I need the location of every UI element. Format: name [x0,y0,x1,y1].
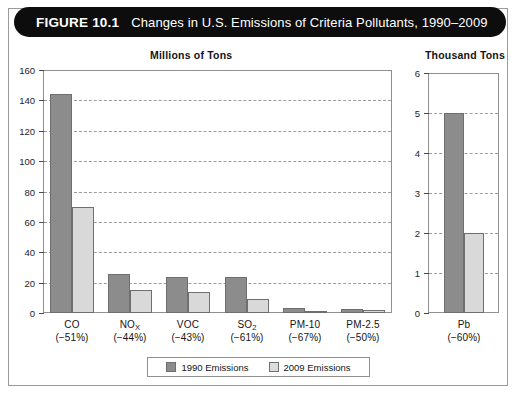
x-axis-category-pm-2.5: PM-2.5(−50%) [346,319,379,343]
legend-item-2009: 2009 Emissions [269,362,351,373]
bar [283,308,305,313]
y-axis-label: 5 [390,108,420,119]
y-axis-tick [39,313,44,314]
x-axis-category-so2: SO2(−61%) [230,319,263,343]
figure-number: FIGURE 10.1 [36,15,119,30]
y-axis-tick [424,73,429,74]
bar [444,113,464,313]
bar [108,274,130,313]
right-chart-title: Thousand Tons [425,49,505,61]
x-axis-category-nox: NOX(−44%) [113,319,146,343]
y-axis-tick [39,283,44,284]
y-axis-tick [424,233,429,234]
x-axis-category-name: PM-2.5 [346,319,379,330]
gridline [44,252,391,253]
bar [247,299,269,313]
x-axis-category-name: VOC [171,319,204,330]
bar [188,292,210,313]
bar [130,290,152,313]
y-axis-tick [39,161,44,162]
gridline [44,161,391,162]
y-axis-tick [424,113,429,114]
y-axis-tick [39,131,44,132]
bar [50,94,72,313]
x-axis-category-change: (−61%) [230,332,263,343]
x-axis-category-change: (−43%) [171,332,204,343]
y-axis-label: 4 [390,148,420,159]
gridline [44,192,391,193]
y-axis-label: 160 [5,65,35,76]
bar [225,277,247,313]
x-axis-category-co: CO(−51%) [55,319,88,343]
legend-swatch-2009 [269,362,279,372]
y-axis-label: 100 [5,156,35,167]
x-axis-category-change: (−51%) [55,332,88,343]
legend-swatch-1990 [166,362,176,372]
gridline [44,131,391,132]
x-axis-category-pb: Pb(−60%) [447,319,480,343]
bar [305,311,327,313]
bar [341,309,363,313]
x-axis-category-change: (−60%) [447,332,480,343]
legend-label-1990: 1990 Emissions [181,362,248,373]
gridline [44,283,391,284]
y-axis-label: 6 [390,68,420,79]
y-axis-tick [424,193,429,194]
figure-container: FIGURE 10.1 Changes in U.S. Emissions of… [0,0,516,394]
y-axis-label: 3 [390,188,420,199]
y-axis-label: 1 [390,268,420,279]
y-axis-label: 40 [5,247,35,258]
x-axis-category-name: Pb [447,319,480,330]
y-axis-tick [424,153,429,154]
x-axis-category-change: (−50%) [346,332,379,343]
y-axis-tick [39,70,44,71]
x-axis-category-name: CO [55,319,88,330]
y-axis-label: 140 [5,95,35,106]
y-axis-tick [39,222,44,223]
y-axis-label: 20 [5,277,35,288]
bar [166,277,188,313]
y-axis-label: 0 [390,308,420,319]
y-axis-label: 60 [5,216,35,227]
chart-legend: 1990 Emissions 2009 Emissions [147,357,370,377]
figure-title: Changes in U.S. Emissions of Criteria Po… [131,15,487,30]
gridline [44,222,391,223]
x-axis-category-voc: VOC(−43%) [171,319,204,343]
y-axis-tick [39,192,44,193]
bar [363,310,385,313]
y-axis-tick [39,100,44,101]
y-axis-label: 2 [390,228,420,239]
y-axis-tick [39,252,44,253]
y-axis-label: 0 [5,308,35,319]
x-axis-category-name: PM-10 [288,319,321,330]
main-chart-title: Millions of Tons [150,49,232,61]
gridline [44,100,391,101]
x-axis-category-name: NOX [113,319,146,330]
figure-header-bar: FIGURE 10.1 Changes in U.S. Emissions of… [14,7,506,37]
y-axis-tick [424,313,429,314]
legend-item-1990: 1990 Emissions [166,362,248,373]
y-axis-label: 80 [5,186,35,197]
y-axis-label: 120 [5,125,35,136]
bar [72,207,94,313]
y-axis-tick [424,273,429,274]
x-axis-category-change: (−44%) [113,332,146,343]
bar [464,233,484,313]
legend-label-2009: 2009 Emissions [284,362,351,373]
x-axis-category-change: (−67%) [288,332,321,343]
x-axis-category-name: SO2 [230,319,263,330]
x-axis-category-pm-10: PM-10(−67%) [288,319,321,343]
